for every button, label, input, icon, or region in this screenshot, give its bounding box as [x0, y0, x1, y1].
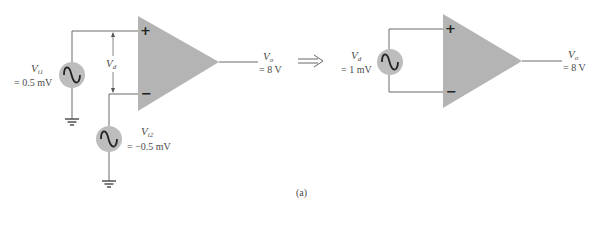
vd-label: Vd — [106, 57, 117, 71]
opamp-diagram: + − Vi1 = 0.5 mV Vd Vi2 = −0.5 mV Vo = 8… — [0, 0, 600, 228]
minus-input-wire — [389, 75, 443, 92]
right-circuit: + − Vd = 1 mV Vo = 8 V — [341, 14, 586, 108]
opamp-minus-sign: − — [141, 86, 152, 101]
ground-icon — [102, 181, 116, 187]
opamp-minus-sign: − — [446, 84, 457, 99]
source2-label: Vi2 — [141, 125, 154, 139]
left-circuit: + − Vi1 = 0.5 mV Vd Vi2 = −0.5 mV Vo = 8… — [14, 16, 282, 187]
source-value: = 1 mV — [341, 64, 372, 75]
source2-value: = −0.5 mV — [127, 141, 172, 152]
source1-value: = 0.5 mV — [14, 77, 53, 88]
ground-icon — [65, 119, 79, 125]
minus-input-wire — [109, 94, 138, 126]
plus-input-wire — [72, 31, 138, 62]
source-label: Vd — [351, 49, 362, 63]
output-value: = 8 V — [259, 64, 282, 75]
output-label: Vo — [263, 50, 274, 64]
plus-input-wire — [389, 29, 443, 49]
source1-label: Vi1 — [31, 62, 43, 76]
opamp-plus-sign: + — [445, 21, 456, 36]
ac-source-icon — [59, 62, 85, 88]
figure-caption: (a) — [296, 187, 307, 199]
ac-source-icon — [96, 126, 122, 152]
equivalence-arrow-icon — [298, 55, 323, 67]
output-label: Vo — [568, 48, 579, 62]
output-value: = 8 V — [563, 62, 586, 73]
ac-source-icon — [377, 49, 403, 75]
opamp-plus-sign: + — [140, 23, 151, 38]
